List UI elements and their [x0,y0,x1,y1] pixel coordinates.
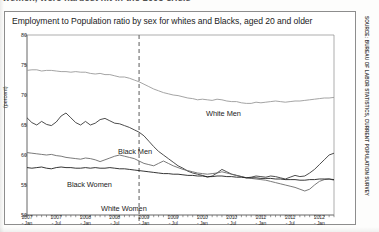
axes-group [25,35,335,217]
x-axis-tick-label: 2007- Jan [13,215,41,226]
x-tick-month: - Jul [42,221,70,227]
body-text-line: women, were hardest hit in the 2008 cris… [3,0,191,3]
series-group [27,70,334,191]
series-line-black-men [27,113,334,179]
x-tick-month: - Jul [218,221,246,227]
body-text-cutoff: women, were hardest hit in the 2008 cris… [0,0,379,11]
series-label-white-women: White Women [101,204,147,213]
x-tick-month: - Jul [101,221,129,227]
x-axis-tick-label: 2011- Jan [247,215,275,226]
x-tick-month: - Jul [159,221,187,227]
x-tick-month: - Jan [305,221,333,227]
x-axis-tick-label: 2011- Jul [276,215,304,226]
x-tick-month: - Jan [130,221,158,227]
x-axis-tick-label: 2010- Jul [218,215,246,226]
series-line-white-men [27,70,334,104]
chart-svg [5,31,357,224]
figure-title: Employment to Population ratio by sex fo… [12,16,352,27]
series-label-black-men: Black Men [118,147,152,156]
x-axis-tick-label: 2012- Jan [305,215,333,226]
x-axis-tick-label: 2008- Jul [101,215,129,226]
plot-area: White Men Black Men Black Women White Wo… [5,31,357,224]
figure-box: Employment to Population ratio by sex fo… [4,11,356,225]
x-axis-tick-label: 2010- Jan [188,215,216,226]
x-axis-tick-label: 2009- Jul [159,215,187,226]
document-page: women, were hardest hit in the 2008 cris… [0,0,379,232]
series-label-black-women: Black Women [67,180,112,189]
x-tick-month: - Jan [13,221,41,227]
x-tick-month: - Jan [71,221,99,227]
source-credit-text: SOURCE: BUREAU OF LABOR STATISTICS, CURR… [364,16,369,196]
x-tick-month: - Jan [247,221,275,227]
x-tick-month: - Jul [276,221,304,227]
source-credit: SOURCE: BUREAU OF LABOR STATISTICS, CURR… [360,16,372,226]
x-axis-tick-label: 2008- Jan [71,215,99,226]
x-tick-month: - Jan [188,221,216,227]
series-label-white-men: White Men [206,109,241,118]
x-axis-tick-label: 2007- Jul [42,215,70,226]
x-axis-tick-label: 2009- Jan [130,215,158,226]
x-axis-tick-labels: 2007- Jan2007- Jul2008- Jan2008- Jul2009… [5,215,357,229]
